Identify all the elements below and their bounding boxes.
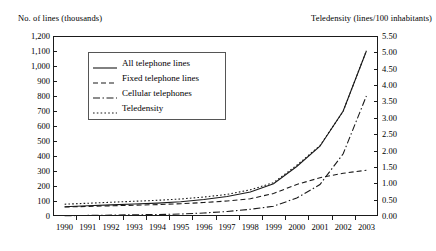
right-tick-label: 1.00 xyxy=(382,179,397,188)
chart-legend: All telephone linesFixed telephone lines… xyxy=(88,52,226,120)
legend-label: Fixed telephone lines xyxy=(122,74,199,83)
left-axis-title: No. of lines (thousands) xyxy=(18,13,102,23)
right-tick-label: 0.00 xyxy=(382,212,397,221)
right-axis-title: Teledensity (lines/100 inhabitants) xyxy=(311,13,432,23)
x-tick-label: 1995 xyxy=(172,222,189,232)
right-tick-mark xyxy=(374,183,378,184)
left-tick-label: 1,100 xyxy=(31,47,50,56)
x-tick-label: 1998 xyxy=(242,222,259,232)
right-axis-tick-labels: 0.000.501.001.502.002.503.003.504.004.50… xyxy=(382,36,434,216)
x-tick-label: 2003 xyxy=(358,222,375,232)
left-tick-mark xyxy=(53,141,57,142)
left-tick-mark xyxy=(53,126,57,127)
x-tick-label: 1993 xyxy=(126,222,143,232)
x-tick-label: 1990 xyxy=(56,222,73,232)
right-tick-label: 3.50 xyxy=(382,97,397,106)
right-tick-mark xyxy=(374,167,378,168)
legend-item-0: All telephone lines xyxy=(93,56,220,71)
x-tick-mark xyxy=(262,216,263,220)
right-tick-label: 5.50 xyxy=(382,32,397,41)
right-tick-label: 4.00 xyxy=(382,81,397,90)
left-tick-mark xyxy=(53,66,57,67)
legend-item-1: Fixed telephone lines xyxy=(93,71,220,86)
right-tick-mark xyxy=(374,101,378,102)
right-tick-mark xyxy=(374,52,378,53)
left-tick-mark xyxy=(53,96,57,97)
right-tick-mark xyxy=(374,151,378,152)
x-tick-mark xyxy=(146,216,147,220)
x-tick-mark xyxy=(355,216,356,220)
x-tick-mark xyxy=(169,216,170,220)
right-tick-label: 2.00 xyxy=(382,146,397,155)
left-tick-label: 700 xyxy=(37,107,50,116)
left-tick-label: 500 xyxy=(37,137,50,146)
series-line-1 xyxy=(65,170,367,207)
right-tick-mark xyxy=(374,85,378,86)
right-tick-mark xyxy=(374,118,378,119)
legend-label: Teledensity xyxy=(122,104,163,113)
x-tick-label: 1994 xyxy=(149,222,166,232)
left-tick-mark xyxy=(53,51,57,52)
x-tick-label: 2001 xyxy=(311,222,328,232)
legend-item-3: Teledensity xyxy=(93,101,220,116)
legend-label: All telephone lines xyxy=(122,59,190,68)
left-tick-label: 800 xyxy=(37,92,50,101)
left-tick-mark xyxy=(53,186,57,187)
left-tick-label: 300 xyxy=(37,167,50,176)
legend-label: Cellular telephones xyxy=(122,89,192,98)
right-tick-label: 0.50 xyxy=(382,195,397,204)
x-tick-label: 2000 xyxy=(288,222,305,232)
left-tick-label: 400 xyxy=(37,152,50,161)
left-tick-mark xyxy=(53,81,57,82)
right-tick-label: 5.00 xyxy=(382,48,397,57)
x-axis-tick-labels: 1990199119921993199419951996199719981999… xyxy=(53,222,378,238)
legend-swatch-dotted xyxy=(93,104,117,114)
x-tick-mark xyxy=(99,216,100,220)
left-tick-mark xyxy=(53,201,57,202)
x-tick-mark xyxy=(76,216,77,220)
x-tick-mark xyxy=(192,216,193,220)
right-tick-label: 2.50 xyxy=(382,130,397,139)
x-tick-label: 1991 xyxy=(79,222,96,232)
x-tick-mark xyxy=(123,216,124,220)
left-tick-label: 1,200 xyxy=(31,32,50,41)
x-tick-mark xyxy=(216,216,217,220)
right-tick-label: 4.50 xyxy=(382,64,397,73)
x-tick-label: 1997 xyxy=(219,222,236,232)
right-tick-label: 1.50 xyxy=(382,163,397,172)
left-axis-tick-labels: 01002003004005006007008009001,0001,1001,… xyxy=(0,36,50,216)
x-tick-mark xyxy=(308,216,309,220)
legend-swatch-dashed xyxy=(93,74,117,84)
x-tick-label: 2002 xyxy=(335,222,352,232)
right-tick-mark xyxy=(374,200,378,201)
left-tick-label: 100 xyxy=(37,197,50,206)
left-tick-mark xyxy=(53,171,57,172)
left-tick-label: 0 xyxy=(46,212,50,221)
x-tick-label: 1992 xyxy=(103,222,120,232)
left-tick-label: 600 xyxy=(37,122,50,131)
x-tick-label: 1999 xyxy=(265,222,282,232)
left-tick-label: 1,000 xyxy=(31,62,50,71)
left-tick-mark xyxy=(53,111,57,112)
x-tick-mark xyxy=(285,216,286,220)
left-tick-label: 900 xyxy=(37,77,50,86)
telephone-lines-chart: No. of lines (thousands) Teledensity (li… xyxy=(0,0,436,251)
legend-swatch-solid xyxy=(93,59,117,69)
x-tick-mark xyxy=(332,216,333,220)
legend-swatch-dashdot xyxy=(93,89,117,99)
right-tick-mark xyxy=(374,134,378,135)
legend-item-2: Cellular telephones xyxy=(93,86,220,101)
left-tick-label: 200 xyxy=(37,182,50,191)
x-tick-label: 1996 xyxy=(195,222,212,232)
right-tick-mark xyxy=(374,69,378,70)
right-tick-label: 3.00 xyxy=(382,114,397,123)
x-tick-mark xyxy=(239,216,240,220)
left-tick-mark xyxy=(53,156,57,157)
